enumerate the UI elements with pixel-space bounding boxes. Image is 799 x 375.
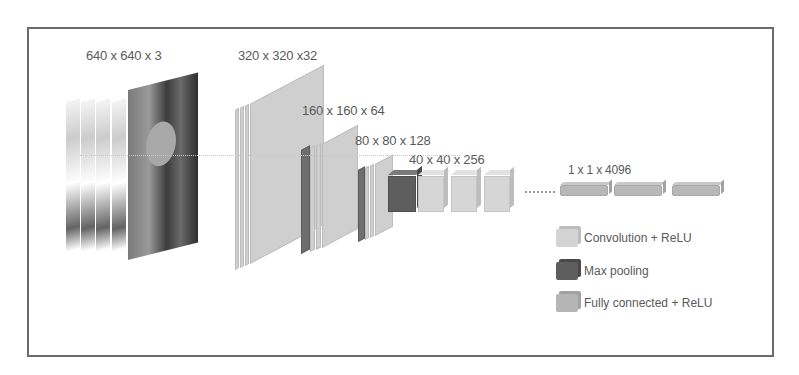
- conv2-pool-slab: [301, 145, 310, 254]
- conv1-slab: [245, 104, 249, 266]
- legend-item-max-pooling: Max pooling: [556, 262, 649, 280]
- input-layer-label: 640 x 640 x 3: [86, 48, 161, 63]
- conv3-pool-slab: [358, 166, 365, 242]
- conv2-slab: [316, 143, 321, 250]
- input-channel-ghost: [96, 99, 110, 252]
- conv4-pool-cube: [388, 170, 422, 212]
- fully-connected-swatch-icon: [556, 294, 578, 312]
- conv4-conv-cube: [484, 170, 514, 212]
- legend-item-fully-connected: Fully connected + ReLU: [556, 294, 712, 312]
- conv3-slab: [365, 166, 369, 240]
- max-pooling-swatch-icon: [556, 262, 578, 280]
- legend-label: Convolution + ReLU: [584, 231, 692, 245]
- conv1-slab: [240, 106, 244, 268]
- fc-label: 1 x 1 x 4096: [568, 163, 631, 177]
- face-region: [146, 118, 176, 169]
- input-channel-ghost: [66, 99, 80, 252]
- conv4-conv-cube: [451, 170, 481, 212]
- legend-label: Fully connected + ReLU: [584, 296, 712, 310]
- fc-block: [614, 182, 666, 196]
- conv4-conv-cube: [418, 170, 448, 212]
- center-guide-line: [80, 155, 460, 156]
- convolution-swatch-icon: [556, 229, 578, 247]
- input-photo: [128, 73, 198, 260]
- legend-item-convolution: Convolution + ReLU: [556, 229, 692, 247]
- conv2-label: 160 x 160 x 64: [302, 103, 385, 118]
- input-channel-ghost: [81, 99, 95, 252]
- conv1-label: 320 x 320 x32: [238, 48, 317, 63]
- fc-block: [672, 182, 724, 196]
- conv1-slab: [235, 108, 239, 270]
- conv3-label: 80 x 80 x 128: [355, 133, 430, 148]
- legend-label: Max pooling: [584, 264, 649, 278]
- flatten-connector: [525, 191, 555, 193]
- fc-block: [560, 182, 612, 196]
- conv3-slab: [370, 164, 374, 238]
- conv2-slab: [310, 145, 315, 252]
- input-channel-ghost: [112, 99, 126, 252]
- conv2-slab-front: [322, 125, 358, 248]
